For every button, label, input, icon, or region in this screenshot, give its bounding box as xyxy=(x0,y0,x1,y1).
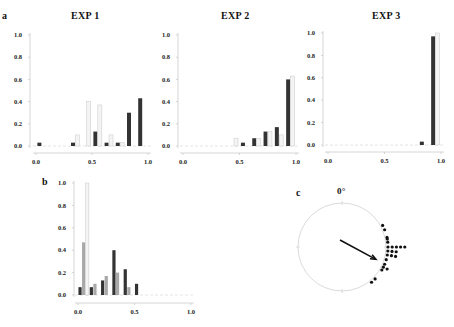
bar-dark xyxy=(286,79,290,146)
circular-plot xyxy=(296,201,406,293)
data-point xyxy=(386,245,389,248)
bar-dark xyxy=(71,143,75,146)
y-tick-label: 0.8 xyxy=(14,53,23,60)
y-tick-label: 0.4 xyxy=(307,96,316,103)
bar-dark xyxy=(116,143,120,146)
data-point xyxy=(386,241,389,244)
mean-vector-arrow xyxy=(340,240,376,259)
bar-light xyxy=(268,132,272,146)
y-tick-label: 0.0 xyxy=(58,291,66,298)
x-tick-label: 0.0 xyxy=(179,158,187,165)
data-point xyxy=(386,249,389,252)
bar-dark xyxy=(127,113,131,146)
y-tick-label: 0.6 xyxy=(14,76,23,83)
bar-dark xyxy=(90,287,93,295)
figure-canvas: 0.00.20.40.60.81.00.00.51.00.00.20.40.60… xyxy=(0,0,454,327)
y-tick-label: 0.6 xyxy=(162,76,171,83)
data-point xyxy=(390,250,393,253)
bar-chart-3: 0.00.20.40.60.81.00.00.51.0 xyxy=(58,179,195,315)
data-point xyxy=(381,224,384,227)
bar-dark xyxy=(241,143,245,146)
bar-light xyxy=(257,138,261,146)
y-tick-label: 0.4 xyxy=(14,98,23,105)
bar-light xyxy=(98,105,102,146)
x-tick-label: 1.0 xyxy=(187,308,195,315)
data-point xyxy=(395,245,398,248)
data-point xyxy=(386,237,389,240)
x-tick-label: 1.0 xyxy=(292,158,300,165)
bar-chart-0: 0.00.20.40.60.81.00.00.51.0 xyxy=(14,31,152,165)
y-tick-label: 0.4 xyxy=(58,246,67,253)
bar-dark xyxy=(420,142,424,145)
bar-dark xyxy=(78,287,81,295)
data-point xyxy=(399,245,402,248)
data-point xyxy=(394,255,397,258)
bar-dark xyxy=(105,143,109,146)
data-point xyxy=(403,245,406,248)
bar-gray xyxy=(93,284,96,295)
bar-light xyxy=(279,135,283,146)
x-tick-label: 0.5 xyxy=(380,157,389,164)
bar-dark xyxy=(101,280,104,295)
y-tick-label: 1.0 xyxy=(58,179,66,186)
y-tick-label: 0.8 xyxy=(162,53,171,60)
y-tick-label: 0.2 xyxy=(58,269,66,276)
data-point xyxy=(386,267,389,270)
bar-dark xyxy=(135,284,138,295)
bar-gray xyxy=(82,242,85,295)
bar-chart-1: 0.00.20.40.60.81.00.00.51.0 xyxy=(162,31,300,165)
y-tick-label: 1.0 xyxy=(307,29,315,36)
data-point xyxy=(383,263,386,266)
bar-dark xyxy=(124,269,127,295)
data-point xyxy=(370,281,373,284)
bar-gray xyxy=(116,273,119,295)
y-tick-label: 0.2 xyxy=(307,119,315,126)
bar-light xyxy=(291,76,295,146)
bar-light xyxy=(87,102,91,146)
bar-gray xyxy=(105,276,108,295)
bar-light xyxy=(109,135,113,146)
bar-dark xyxy=(431,36,435,145)
bar-gray xyxy=(127,287,130,295)
x-tick-label: 1.0 xyxy=(437,157,445,164)
bar-light xyxy=(120,143,124,146)
x-tick-label: 0.5 xyxy=(88,158,97,165)
bar-chart-2: 0.00.20.40.60.81.00.00.51.0 xyxy=(307,29,445,164)
bar-dark xyxy=(37,143,41,146)
bar-dark xyxy=(112,250,115,295)
y-tick-label: 0.8 xyxy=(58,202,67,209)
y-tick-label: 0.6 xyxy=(307,74,316,81)
bar-dark xyxy=(264,132,268,146)
y-tick-label: 0.0 xyxy=(307,141,315,148)
data-point xyxy=(383,228,386,231)
data-point xyxy=(390,254,393,257)
x-tick-label: 1.0 xyxy=(144,158,152,165)
bar-dark xyxy=(93,132,97,146)
bar-light xyxy=(436,33,440,145)
bar-dark xyxy=(275,127,279,146)
x-tick-label: 0.0 xyxy=(74,308,82,315)
y-tick-label: 0.4 xyxy=(162,98,171,105)
bar-dark xyxy=(252,138,256,146)
bar-dark xyxy=(138,98,142,146)
y-tick-label: 0.0 xyxy=(162,142,170,149)
y-tick-label: 0.8 xyxy=(307,52,316,59)
y-tick-label: 0.6 xyxy=(58,224,67,231)
y-tick-label: 1.0 xyxy=(14,31,22,38)
x-tick-label: 0.5 xyxy=(130,308,139,315)
x-tick-label: 0.5 xyxy=(235,158,244,165)
data-point xyxy=(391,245,394,248)
data-point xyxy=(382,266,385,269)
y-tick-label: 0.0 xyxy=(14,142,22,149)
data-point xyxy=(380,268,383,271)
y-tick-label: 1.0 xyxy=(162,31,170,38)
y-tick-label: 0.2 xyxy=(14,120,22,127)
bar-light xyxy=(234,138,238,146)
data-point xyxy=(385,258,388,261)
bar-light xyxy=(86,183,89,295)
data-point xyxy=(373,277,376,280)
y-tick-label: 0.2 xyxy=(162,120,170,127)
x-tick-label: 0.0 xyxy=(324,157,332,164)
x-tick-label: 0.0 xyxy=(32,158,40,165)
data-point xyxy=(395,250,398,253)
